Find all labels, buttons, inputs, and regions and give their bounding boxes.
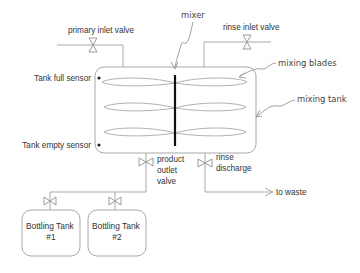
tank-full-sensor-label: Tank full sensor (34, 74, 91, 83)
rinse-discharge-label-line-1: rinse (216, 153, 234, 162)
product-outlet-valve-label-line-1: product (157, 155, 185, 164)
mixing-tank-arrowhead-icon (256, 110, 262, 117)
mixing-tank-callout (257, 100, 295, 116)
primary-inlet-valve-label: primary inlet valve (68, 26, 134, 35)
to-waste-label: to waste (276, 188, 307, 197)
rinse-inlet-valve-label: rinse inlet valve (223, 23, 280, 32)
primary-inlet-pipe (57, 45, 123, 67)
rinse-discharge-label-line-2: discharge (216, 164, 252, 173)
process-diagram: primary inlet valve rinse inlet valve Ta… (0, 0, 360, 273)
mixer-label: mixer (181, 10, 205, 20)
tank-empty-sensor-icon (97, 143, 100, 146)
product-outlet-valve-label: product outlet valve (157, 155, 187, 186)
product-outlet-pipe (50, 153, 146, 210)
bottling-tank-2-label-line-2: #2 (112, 232, 122, 242)
bottling-tank-1-label-line-1: Bottling Tank (26, 221, 75, 231)
tank-full-sensor-icon (97, 76, 100, 79)
product-outlet-valve-label-line-3: valve (157, 177, 177, 186)
bottling-tank-2-label-line-1: Bottling Tank (92, 221, 141, 231)
bottling-tank-1-label-line-2: #1 (46, 232, 56, 242)
mixing-blades-label: mixing blades (278, 58, 337, 68)
rinse-discharge-label: rinse discharge (216, 153, 252, 173)
mixing-tank-label: mixing tank (297, 94, 347, 104)
mixer-callout (175, 22, 193, 67)
rinse-inlet-pipe (204, 42, 271, 67)
tank-empty-sensor-label: Tank empty sensor (22, 141, 91, 150)
product-outlet-valve-label-line-2: outlet (157, 166, 178, 175)
